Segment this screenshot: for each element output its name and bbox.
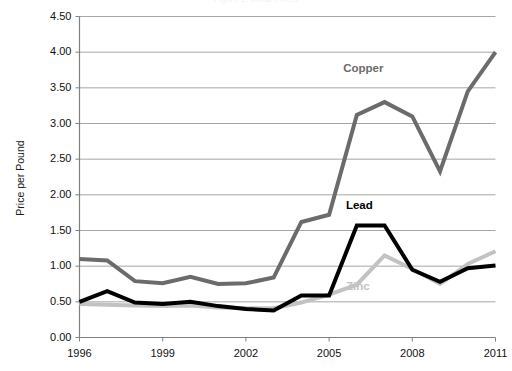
plot-area xyxy=(0,0,512,371)
series-lines xyxy=(80,52,496,310)
y-tick-label: 2.50 xyxy=(38,153,72,164)
x-tick-label: 1996 xyxy=(55,348,105,359)
x-tick-label: 2002 xyxy=(221,348,271,359)
series-line-copper xyxy=(80,52,496,284)
series-line-lead xyxy=(80,226,496,311)
x-tick-label: 2008 xyxy=(387,348,437,359)
x-tick-label: 2005 xyxy=(304,348,354,359)
series-label-zinc: Zinc xyxy=(346,280,370,292)
y-tick-label: 2.00 xyxy=(38,189,72,200)
x-tick-label: 1999 xyxy=(138,348,188,359)
y-axis-title: Price per Pound xyxy=(13,118,27,238)
y-tick-label: 0.00 xyxy=(38,332,72,343)
y-tick-label: 1.50 xyxy=(38,225,72,236)
y-tick-label: 3.00 xyxy=(38,118,72,129)
axis-ticks xyxy=(76,17,496,342)
x-tick-label: 2011 xyxy=(471,348,512,359)
y-tick-label: 4.00 xyxy=(38,46,72,57)
y-tick-label: 3.50 xyxy=(38,82,72,93)
y-tick-label: 1.00 xyxy=(38,260,72,271)
axis-spines xyxy=(80,17,496,338)
y-tick-label: 4.50 xyxy=(38,11,72,22)
series-label-lead: Lead xyxy=(346,199,373,211)
chart-title: Figure 1. Metal Prices xyxy=(0,0,512,4)
y-tick-label: 0.50 xyxy=(38,296,72,307)
metal-prices-chart: Figure 1. Metal Prices Price per Pound 0… xyxy=(0,0,512,371)
series-label-copper: Copper xyxy=(343,62,383,74)
